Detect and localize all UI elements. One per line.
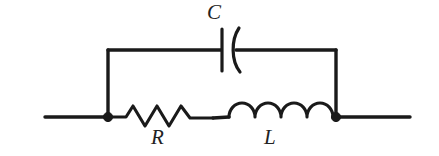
right-junction-dot bbox=[331, 112, 340, 121]
resistor-label: R bbox=[151, 127, 164, 148]
circuit-diagram: C R L bbox=[0, 0, 439, 156]
inductor-label: L bbox=[264, 127, 276, 148]
left-junction-dot bbox=[103, 112, 112, 121]
resistor-symbol bbox=[108, 106, 213, 126]
capacitor-label: C bbox=[207, 2, 221, 23]
inductor-symbol bbox=[229, 103, 333, 117]
resistor-to-inductor-wire bbox=[213, 117, 229, 118]
